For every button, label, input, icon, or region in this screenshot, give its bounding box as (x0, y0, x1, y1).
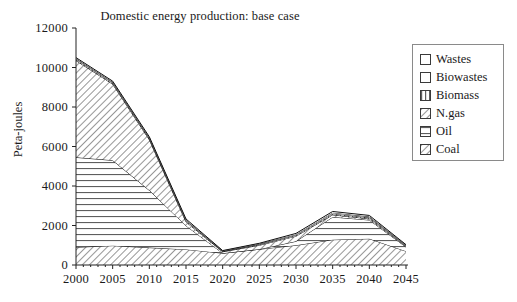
area-series-oil (76, 157, 406, 253)
legend-swatch-icon (420, 144, 431, 155)
legend-item[interactable]: Coal (420, 140, 503, 158)
legend-label: Wastes (436, 53, 471, 66)
legend-label: Biowastes (436, 71, 487, 84)
legend-label: N.gas (436, 107, 465, 120)
legend-item[interactable]: Biomass (420, 86, 503, 104)
legend-label: Oil (436, 125, 452, 138)
legend-swatch-icon (420, 108, 431, 119)
legend-label: Biomass (436, 89, 479, 102)
chart-container: Domestic energy production: base case Pe… (0, 0, 517, 302)
chart-legend: WastesBiowastesBiomassN.gasOilCoal (412, 44, 504, 161)
legend-swatch-icon (420, 126, 431, 137)
legend-label: Coal (436, 143, 460, 156)
legend-item[interactable]: N.gas (420, 104, 503, 122)
legend-item[interactable]: Oil (420, 122, 503, 140)
legend-item[interactable]: Biowastes (420, 68, 503, 86)
legend-swatch-icon (420, 54, 431, 65)
legend-swatch-icon (420, 72, 431, 83)
legend-swatch-icon (420, 90, 431, 101)
stacked-areas (76, 58, 406, 265)
legend-item[interactable]: Wastes (420, 50, 503, 68)
